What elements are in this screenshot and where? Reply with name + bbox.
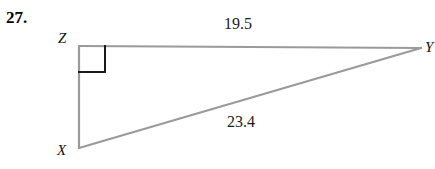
side-xy-line: [79, 48, 421, 148]
geometry-figure: 27. Z Y X 19.5 23.4: [0, 0, 435, 169]
side-zy-line: [79, 46, 421, 48]
right-angle-marker-icon: [79, 46, 105, 72]
vertex-label-z: Z: [58, 31, 66, 46]
vertex-label-y: Y: [425, 40, 433, 55]
vertex-label-x: X: [57, 143, 66, 158]
side-length-label-zy: 19.5: [224, 16, 252, 32]
side-length-label-xy: 23.4: [227, 114, 255, 130]
